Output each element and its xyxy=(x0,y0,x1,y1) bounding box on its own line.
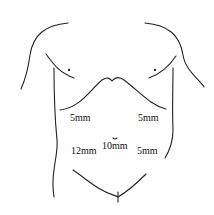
costal-margin-line xyxy=(60,78,166,111)
port-label-left-upper: 5mm xyxy=(70,113,91,123)
right-inguinal-line xyxy=(118,174,146,197)
port-label-right-lower: 5mm xyxy=(137,146,158,156)
left-shoulder-line xyxy=(21,23,68,89)
port-label-left-lower: 12mm xyxy=(71,146,97,156)
right-flank-line xyxy=(165,68,173,158)
left-inguinal-line xyxy=(73,170,118,197)
left-pectoral-line xyxy=(46,54,74,78)
port-label-umbilical: 10mm xyxy=(102,141,128,151)
torso-outline xyxy=(0,0,214,215)
right-shoulder-line xyxy=(145,23,204,87)
right-pectoral-line xyxy=(149,56,176,78)
umbilicus-mark xyxy=(113,138,117,139)
left-nipple xyxy=(68,69,69,70)
left-flank-line xyxy=(53,68,57,197)
port-label-right-upper: 5mm xyxy=(138,113,159,123)
right-nipple xyxy=(154,69,155,70)
